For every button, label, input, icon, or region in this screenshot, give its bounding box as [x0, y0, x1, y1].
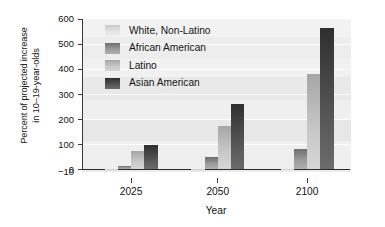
- y-axis-ticks: 6005004003002001000−10: [40, 0, 82, 200]
- legend-label: Latino: [129, 61, 157, 71]
- bar: [320, 28, 333, 170]
- bar: [307, 74, 320, 169]
- x-axis-tick-label: 2025: [101, 187, 161, 197]
- bar: [231, 104, 244, 169]
- legend-label: African American: [129, 43, 206, 53]
- bar: [105, 169, 118, 172]
- bar: [191, 169, 204, 172]
- y-axis-tick-label: −10: [58, 167, 74, 176]
- legend-label: Asian American: [129, 78, 200, 88]
- legend-swatch: [105, 78, 120, 89]
- bar-chart: Percent of projected increase in 10–19-y…: [0, 0, 385, 227]
- x-axis-tick-mark: [131, 178, 132, 183]
- x-axis-tick-label: 2050: [188, 187, 248, 197]
- bar: [118, 166, 131, 170]
- y-axis-title: Percent of projected increase in 10–19-y…: [0, 0, 40, 190]
- legend-label: White, Non-Latino: [129, 26, 211, 36]
- legend-item: African American: [105, 40, 211, 58]
- x-axis-tick-mark: [217, 178, 218, 183]
- legend-item: White, Non-Latino: [105, 22, 211, 40]
- y-axis-title-line1: Percent of projected increase: [19, 27, 29, 144]
- bar: [205, 157, 218, 169]
- x-axis-tick-label: 2100: [277, 187, 337, 197]
- legend-swatch: [105, 43, 120, 54]
- x-axis-tick-mark: [307, 178, 308, 183]
- y-axis-tick-label: 400: [58, 64, 74, 73]
- bar: [294, 149, 307, 169]
- bar: [131, 151, 144, 170]
- y-axis-tick-label: 100: [58, 140, 74, 149]
- y-axis-tick-label: 300: [58, 90, 74, 99]
- legend-item: Asian American: [105, 75, 211, 93]
- y-axis-tick-label: 500: [58, 39, 74, 48]
- bar: [144, 145, 157, 170]
- bar: [218, 126, 231, 169]
- y-axis-tick-label: 200: [58, 115, 74, 124]
- legend-swatch: [105, 25, 120, 36]
- y-axis-tick-label: 600: [58, 14, 74, 23]
- legend: White, Non-LatinoAfrican AmericanLatinoA…: [105, 22, 211, 92]
- bar: [281, 169, 294, 171]
- legend-swatch: [105, 60, 120, 71]
- legend-item: Latino: [105, 57, 211, 75]
- x-axis-title: Year: [82, 205, 350, 216]
